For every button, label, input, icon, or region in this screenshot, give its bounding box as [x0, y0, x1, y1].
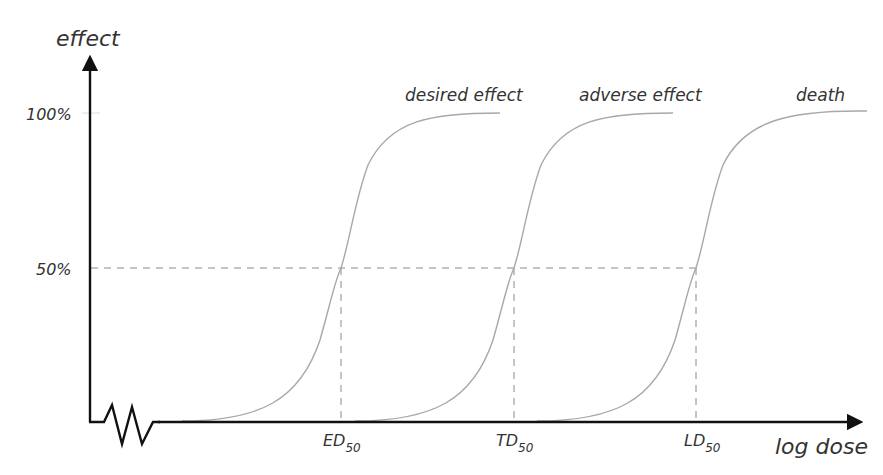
curve-label-death: death	[796, 85, 845, 105]
axes	[89, 58, 860, 444]
axis-break-zigzag	[89, 405, 160, 444]
dose-response-diagram: effect log dose 100% 50% desired effect …	[0, 0, 883, 475]
curve-label-desired-effect: desired effect	[405, 85, 524, 105]
tick-label-100: 100%	[26, 105, 72, 124]
ed50-label: ED50	[323, 431, 361, 455]
x-axis-label: log dose	[775, 434, 868, 459]
td50-label: TD50	[496, 431, 534, 455]
curve-death	[537, 111, 867, 421]
ld50-label: LD50	[684, 431, 721, 455]
curves	[182, 111, 867, 421]
curve-label-adverse-effect: adverse effect	[579, 85, 703, 105]
y-axis-label: effect	[56, 26, 121, 51]
tick-label-50: 50%	[36, 260, 72, 279]
reference-lines	[91, 268, 696, 421]
